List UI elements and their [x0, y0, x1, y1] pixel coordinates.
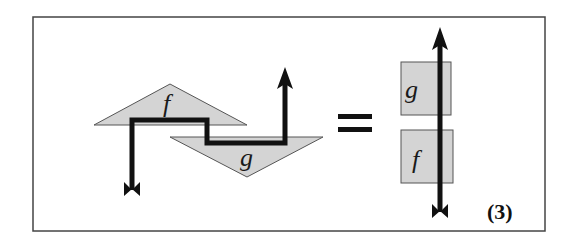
equation-number: (3): [487, 199, 513, 224]
g-label-right: g: [405, 75, 418, 104]
g-label-left: g: [240, 143, 253, 172]
string-diagram: f g g f (3): [0, 0, 573, 245]
f-box: [401, 130, 453, 183]
